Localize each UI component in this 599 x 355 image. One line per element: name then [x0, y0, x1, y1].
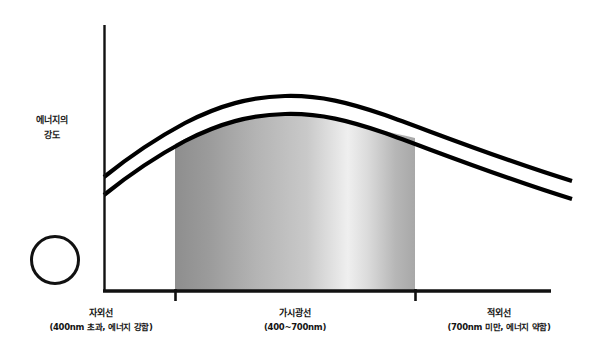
- band-title-visible: 가시광선: [200, 306, 390, 320]
- band-title-ultraviolet: 자외선: [6, 306, 196, 320]
- spectrum-diagram: 에너지의 강도 자외선 (400nm 초과, 에너지 강함) 가시광선 (400…: [0, 0, 599, 355]
- band-label-visible: 가시광선 (400~700nm): [200, 306, 390, 334]
- plot-canvas: [0, 0, 599, 355]
- band-label-ultraviolet: 자외선 (400nm 초과, 에너지 강함): [6, 306, 196, 334]
- y-axis-title-line2: 강도: [12, 128, 92, 143]
- band-title-infrared: 적외선: [404, 306, 594, 320]
- band-label-infrared: 적외선 (700nm 미만, 에너지 약함): [404, 306, 594, 334]
- band-range-ultraviolet: (400nm 초과, 에너지 강함): [6, 320, 196, 334]
- y-axis-title-line1: 에너지의: [12, 113, 92, 128]
- band-range-infrared: (700nm 미만, 에너지 약함): [404, 320, 594, 334]
- band-range-visible: (400~700nm): [200, 320, 390, 334]
- y-axis-title: 에너지의 강도: [12, 113, 92, 143]
- legend-circle-icon: [32, 237, 79, 284]
